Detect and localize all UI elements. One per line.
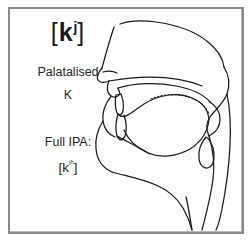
figure-root: [kj] Palatalised K Full IPA: [kʲʰ] (0, 0, 252, 242)
jaw-underside-outline (112, 172, 192, 230)
neck-front-contour (186, 197, 192, 230)
larynx-front-line (202, 136, 214, 230)
pharynx-back-wall (216, 94, 230, 230)
full-ipa-symbol: [kʲʰ] (14, 158, 122, 175)
epiglottis (199, 137, 214, 168)
hard-palate-line (118, 84, 210, 102)
description-line-1: Palatalised (14, 65, 122, 79)
nasal-floor-line (109, 77, 202, 86)
full-ipa-close-bracket: ] (74, 160, 78, 175)
ipa-close-bracket: ] (77, 18, 85, 46)
skull-top-outline (120, 21, 224, 67)
lower-lip-outline (103, 96, 115, 137)
ipa-base-letter: k (59, 18, 74, 46)
ipa-open-bracket: [ (51, 18, 59, 46)
tongue-upper-surface (118, 95, 209, 119)
tongue-palate-contact-dotted-line (151, 95, 209, 114)
description-line-2: K (14, 88, 122, 102)
tongue-body-lower-outline (124, 119, 209, 156)
ipa-symbol-primary: [kj] (20, 20, 116, 45)
full-ipa-heading: Full IPA: (14, 135, 122, 149)
